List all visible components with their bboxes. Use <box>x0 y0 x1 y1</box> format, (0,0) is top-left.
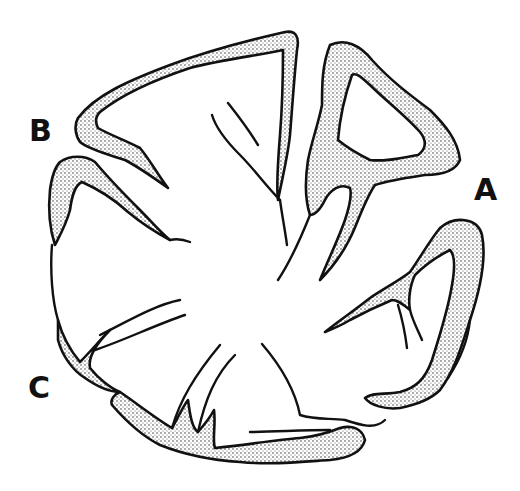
label-c: C <box>28 373 50 403</box>
lobe-b <box>49 157 170 320</box>
label-b: B <box>29 116 52 146</box>
diagram-figure <box>0 0 520 491</box>
lobe-bottom <box>111 344 385 463</box>
label-a: A <box>474 175 497 205</box>
lobe-a <box>325 220 484 409</box>
lobe-c <box>58 300 185 392</box>
top-lobe <box>76 32 298 200</box>
